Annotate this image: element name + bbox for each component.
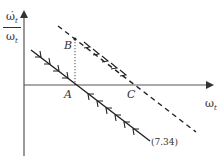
point-label-c: C <box>127 89 135 100</box>
y-axis-label: ω̇t ωt <box>3 11 21 45</box>
point-label-b: B <box>64 40 72 51</box>
point-label-a: A <box>64 89 72 100</box>
arrow-icon <box>84 42 126 76</box>
equation-label: (7.34) <box>151 138 178 147</box>
point-b-dot <box>74 38 77 41</box>
dashed-line <box>58 26 196 132</box>
phase-diagram <box>0 0 224 160</box>
x-axis-label: ωt <box>205 97 217 112</box>
